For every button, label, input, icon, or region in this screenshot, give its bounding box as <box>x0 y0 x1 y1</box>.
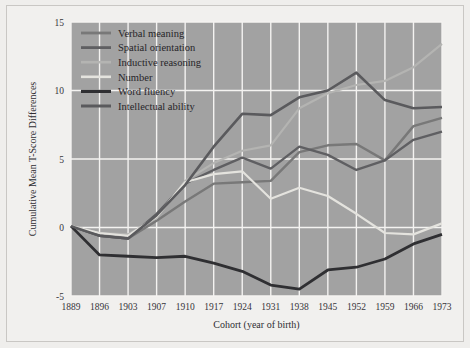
legend-label-spatial-orientation: Spatial orientation <box>118 42 196 53</box>
x-tick-label: 1907 <box>147 302 166 312</box>
legend-label-number: Number <box>118 72 153 83</box>
x-tick-label: 1931 <box>261 302 280 312</box>
x-tick-label: 1917 <box>204 302 223 312</box>
x-tick-label: 1973 <box>433 302 452 312</box>
figure-container: -5051015 1889189619031907191019171924193… <box>0 0 470 348</box>
x-tick-label: 1903 <box>119 302 138 312</box>
x-tick-label: 1966 <box>404 302 423 312</box>
y-tick-label: -5 <box>56 292 64 302</box>
x-tick-label: 1910 <box>176 302 195 312</box>
x-tick-label: 1889 <box>62 302 81 312</box>
x-tick-label: 1924 <box>233 302 252 312</box>
y-tick-label: 10 <box>55 86 65 96</box>
y-tick-label: 15 <box>55 18 65 28</box>
x-tick-label: 1896 <box>90 302 109 312</box>
legend-label-intellectual-ability: Intellectual ability <box>118 101 195 112</box>
x-axis-title: Cohort (year of birth) <box>213 319 299 331</box>
y-tick-label: 0 <box>59 223 64 233</box>
y-axis-tick-labels: -5051015 <box>55 18 65 302</box>
y-tick-label: 5 <box>59 155 64 165</box>
legend-label-word-fluency: Word fluency <box>118 86 176 97</box>
x-axis-tick-labels: 1889189619031907191019171924193119381945… <box>62 302 452 312</box>
x-tick-label: 1938 <box>290 302 309 312</box>
line-chart: -5051015 1889189619031907191019171924193… <box>0 0 470 348</box>
x-tick-label: 1952 <box>347 302 366 312</box>
chart-plot-wrapper: -5051015 1889189619031907191019171924193… <box>0 0 470 348</box>
legend-label-inductive-reasoning: Inductive reasoning <box>118 57 202 68</box>
x-tick-label: 1945 <box>318 302 337 312</box>
legend-label-verbal-meaning: Verbal meaning <box>118 28 185 39</box>
x-tick-label: 1959 <box>375 302 394 312</box>
y-axis-title: Cumulative Mean T-Score Differences <box>27 82 38 237</box>
